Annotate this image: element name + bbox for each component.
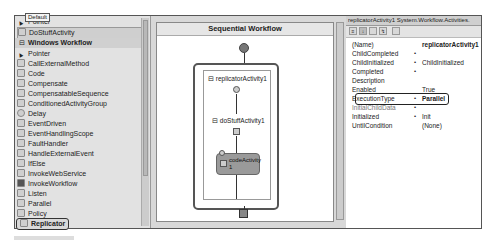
delay-clock-icon xyxy=(17,109,25,117)
properties-toolbar: ≡↓↯ xyxy=(346,26,481,38)
pointer-arrow-icon xyxy=(17,50,25,58)
toolbox-item-callexternalmethod[interactable]: CallExternalMethod xyxy=(17,59,89,69)
policy-icon xyxy=(17,209,25,217)
toolbox-scrollbar[interactable] xyxy=(141,18,149,226)
figure-caption-fragment xyxy=(14,236,74,240)
connector-line xyxy=(236,175,237,199)
tooltip: Default xyxy=(25,13,50,22)
event-icon: • xyxy=(414,49,416,58)
properties-icon[interactable] xyxy=(369,27,377,35)
toolbox-item-delay[interactable]: Delay xyxy=(17,109,46,119)
ide-window: Pointer Default DoStuffActivity ⊟Windows… xyxy=(14,15,482,229)
replicator-icon xyxy=(233,86,240,93)
connector-line xyxy=(244,53,245,63)
designer-scrollbar[interactable] xyxy=(336,22,344,220)
event-icon: • xyxy=(414,58,416,67)
dropdown-icon: • xyxy=(414,94,416,103)
toolbox-item-eventdriven[interactable]: EventDriven xyxy=(17,119,66,129)
listen-icon xyxy=(17,189,25,197)
replicator-inner-container: ⊟ replicatorActivity1 ⊟ doStuffActivity1… xyxy=(203,70,271,200)
toolbox-item-faulthandler[interactable]: FaultHandler xyxy=(17,139,68,149)
toolbox-item-compensate[interactable]: Compensate xyxy=(17,79,68,89)
compensate-icon xyxy=(17,79,25,87)
replicator-activity-shape[interactable]: ⊟ replicatorActivity1 ⊟ doStuffActivity1… xyxy=(193,63,279,210)
connector-line xyxy=(236,94,237,114)
events-lightning-icon[interactable]: ↯ xyxy=(379,27,387,35)
toolbox-item-invokeworkflow[interactable]: InvokeWorkflow xyxy=(17,179,77,189)
toolbox-item-replicator[interactable]: Replicator xyxy=(16,218,69,230)
replicator-icon xyxy=(20,219,28,227)
code-icon xyxy=(220,160,227,167)
dostuff-label: ⊟ doStuffActivity1 xyxy=(212,117,265,125)
scroll-thumb[interactable] xyxy=(143,20,148,176)
event-driven-icon xyxy=(17,119,25,127)
code-icon xyxy=(17,69,25,77)
toolbox-item-handleexternalevent[interactable]: HandleExternalEvent xyxy=(17,149,94,159)
toolbox-panel: Pointer Default DoStuffActivity ⊟Windows… xyxy=(15,16,151,228)
event-icon: • xyxy=(414,112,416,121)
compensatable-sequence-icon xyxy=(17,89,25,97)
collapse-icon: ⊟ xyxy=(19,39,25,46)
toolbox-section-windows-workflow[interactable]: ⊟Windows Workflow xyxy=(15,38,143,48)
properties-object-selector[interactable]: replicatorActivity1 System.Workflow.Acti… xyxy=(346,16,481,26)
workflow-designer[interactable]: Sequential Workflow ⊟ replicatorActivity… xyxy=(156,22,334,222)
toolbox-item-ifelse[interactable]: IfElse xyxy=(17,159,46,169)
fault-handler-icon xyxy=(17,139,25,147)
toolbox-item-listen[interactable]: Listen xyxy=(17,189,47,199)
invoke-web-service-icon xyxy=(17,169,25,177)
warning-icon xyxy=(219,150,225,156)
conditioned-activity-group-icon xyxy=(17,99,25,107)
workflow-start-icon xyxy=(239,43,249,53)
dostuff-activity-icon xyxy=(233,128,240,135)
ifelse-icon xyxy=(17,159,25,167)
activity-gear-icon xyxy=(18,28,26,36)
toolbox-item-invokewebservice[interactable]: InvokeWebService xyxy=(17,169,86,179)
toolbox-item-code[interactable]: Code xyxy=(17,69,45,79)
handle-external-event-icon xyxy=(17,149,25,157)
parallel-icon xyxy=(17,199,25,207)
toolbox-item-eventhandlingscope[interactable]: EventHandlingScope xyxy=(17,129,93,139)
properties-panel: replicatorActivity1 System.Workflow.Acti… xyxy=(346,16,481,228)
property-pages-icon[interactable] xyxy=(392,27,400,35)
event-handling-scope-icon xyxy=(17,129,25,137)
call-external-method-icon xyxy=(17,59,25,67)
connector-line xyxy=(236,136,237,153)
categorized-icon[interactable]: ≡ xyxy=(349,27,357,35)
event-icon: • xyxy=(414,67,416,76)
alphabetical-icon[interactable]: ↓ xyxy=(359,27,367,35)
workflow-end-icon xyxy=(239,209,248,218)
code-activity-shape[interactable]: codeActivity1 xyxy=(216,153,260,175)
toolbox-item-parallel[interactable]: Parallel xyxy=(17,199,51,209)
pointer-arrow-icon xyxy=(17,18,25,26)
invoke-workflow-icon xyxy=(17,179,25,187)
toolbox-item-compensatablesequence[interactable]: CompensatableSequence xyxy=(17,89,109,99)
replicator-label: ⊟ replicatorActivity1 xyxy=(208,75,267,83)
designer-title: Sequential Workflow xyxy=(157,23,333,36)
toolbox-item-conditionedactivitygroup[interactable]: ConditionedActivityGroup xyxy=(17,99,107,109)
toolbox-item-pointer[interactable]: Pointer xyxy=(17,49,50,59)
